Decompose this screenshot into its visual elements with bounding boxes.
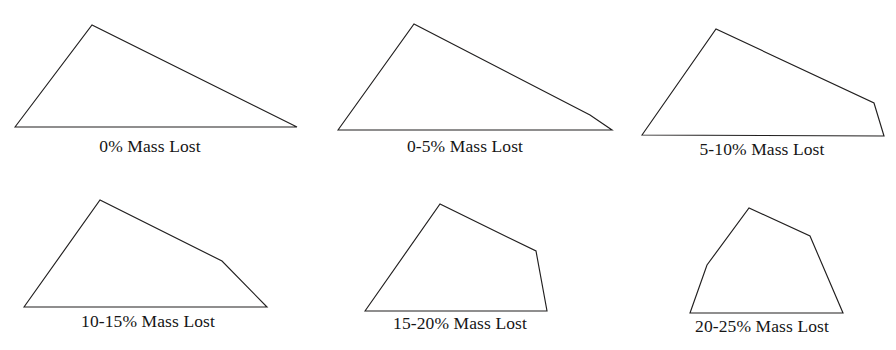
panel-0-5-percent-mass-lost[interactable]: 0-5% Mass Lost [338, 24, 612, 156]
caption-10-15-percent: 10-15% Mass Lost [81, 311, 215, 331]
caption-0-5-percent: 0-5% Mass Lost [407, 136, 523, 156]
caption-20-25-percent: 20-25% Mass Lost [695, 316, 829, 336]
panel-5-10-percent-mass-lost[interactable]: 5-10% Mass Lost [642, 29, 884, 159]
panel-15-20-percent-mass-lost[interactable]: 15-20% Mass Lost [365, 204, 547, 333]
shape-outline-0-5-percent[interactable] [338, 24, 612, 130]
caption-5-10-percent: 5-10% Mass Lost [700, 139, 825, 159]
caption-0-percent: 0% Mass Lost [99, 136, 200, 156]
shape-outline-20-25-percent[interactable] [690, 208, 843, 313]
shape-outline-5-10-percent[interactable] [642, 29, 884, 136]
caption-15-20-percent: 15-20% Mass Lost [393, 313, 527, 333]
panel-20-25-percent-mass-lost[interactable]: 20-25% Mass Lost [690, 208, 843, 336]
figure-container: 0% Mass Lost 0-5% Mass Lost 5-10% Mass L… [0, 0, 896, 350]
shape-series-svg: 0% Mass Lost 0-5% Mass Lost 5-10% Mass L… [0, 0, 896, 350]
shape-outline-10-15-percent[interactable] [24, 200, 267, 307]
panel-10-15-percent-mass-lost[interactable]: 10-15% Mass Lost [24, 200, 267, 331]
panel-0-percent-mass-lost[interactable]: 0% Mass Lost [15, 25, 297, 156]
shape-outline-15-20-percent[interactable] [365, 204, 547, 311]
shape-outline-0-percent[interactable] [15, 25, 297, 127]
